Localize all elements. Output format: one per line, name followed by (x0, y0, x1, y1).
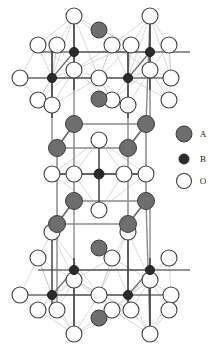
atom-O (161, 250, 177, 266)
atom-O (66, 8, 82, 24)
atom-O (91, 132, 107, 148)
legend-swatch-b-icon (179, 154, 189, 164)
legend-swatch-a-icon (176, 126, 192, 142)
figure-canvas: A B O (0, 0, 224, 348)
atom-B (123, 73, 132, 82)
legend-label-o: O (200, 176, 207, 186)
atom-A (91, 91, 107, 107)
atom-B (94, 169, 104, 179)
atom-A (91, 240, 107, 256)
atom-O (104, 37, 120, 53)
atom-B (123, 290, 132, 299)
atom-A (138, 193, 155, 210)
atom-B (69, 265, 78, 274)
atom-O (163, 287, 179, 303)
atom-O (163, 70, 179, 86)
atom-O (104, 250, 120, 266)
crystal-structure-figure: A B O (0, 0, 224, 348)
atom-O (12, 287, 28, 303)
atom-O (120, 97, 136, 113)
atom-O (30, 302, 46, 318)
atom-O (66, 166, 82, 182)
atom-O (161, 92, 177, 108)
atom-B (47, 73, 56, 82)
atom-O (91, 202, 107, 218)
atom-O (123, 302, 139, 318)
atom-A (49, 140, 66, 157)
atom-O (30, 37, 46, 53)
atom-O (123, 37, 139, 53)
atom-O (142, 8, 158, 24)
atom-B (47, 290, 56, 299)
atom-A (49, 216, 66, 233)
legend-label-a: A (200, 129, 207, 139)
legend-swatch-o-icon (177, 174, 192, 189)
atom-O (12, 70, 28, 86)
atom-A (138, 116, 155, 133)
atom-O (66, 326, 82, 342)
legend-label-b: B (200, 154, 206, 164)
atom-A (120, 216, 137, 233)
atom-A (66, 116, 83, 133)
atom-O (138, 166, 154, 182)
atom-O (142, 326, 158, 342)
atom-O (142, 62, 158, 78)
atom-O (30, 250, 46, 266)
atom-O (49, 302, 65, 318)
atom-O (116, 166, 132, 182)
atom-O (66, 62, 82, 78)
atom-O (44, 97, 60, 113)
atom-B (145, 265, 154, 274)
atom-O (91, 70, 107, 86)
atom-O (49, 37, 65, 53)
atom-B (145, 47, 154, 56)
atom-A (66, 193, 83, 210)
atom-O (161, 37, 177, 53)
atom-A (120, 140, 137, 157)
atom-B (69, 47, 78, 56)
atom-O (161, 302, 177, 318)
atom-O (44, 166, 60, 182)
atom-A (91, 22, 107, 38)
atom-A (91, 310, 107, 326)
atom-O (91, 287, 107, 303)
